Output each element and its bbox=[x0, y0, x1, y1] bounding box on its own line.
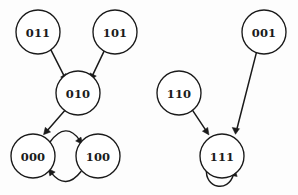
edge-line bbox=[51, 50, 65, 77]
node-001[interactable]: 001 bbox=[242, 10, 286, 54]
node-111[interactable]: 111 bbox=[200, 134, 244, 178]
edge-100-to-000 bbox=[48, 169, 81, 182]
edge-line bbox=[237, 53, 257, 129]
node-label: 100 bbox=[86, 150, 111, 164]
edge-000-to-100 bbox=[50, 131, 83, 144]
diagram-canvas: 011 101 010 000 100 110 bbox=[0, 0, 298, 195]
node-label: 001 bbox=[252, 26, 277, 40]
edge-001-to-111 bbox=[232, 53, 256, 135]
edge-curve bbox=[51, 172, 81, 182]
node-010[interactable]: 010 bbox=[56, 71, 100, 115]
edge-line bbox=[47, 111, 65, 131]
node-group: 011 101 010 000 100 110 bbox=[11, 10, 286, 178]
arrow-head-icon bbox=[202, 127, 209, 134]
edge-curve bbox=[50, 131, 80, 142]
node-label: 111 bbox=[210, 150, 235, 164]
node-label: 000 bbox=[21, 150, 46, 164]
node-label: 010 bbox=[66, 87, 91, 101]
node-label: 011 bbox=[26, 26, 51, 40]
node-label: 101 bbox=[103, 26, 128, 40]
arrow-head-icon bbox=[232, 127, 239, 134]
node-label: 110 bbox=[167, 87, 192, 101]
edge-line bbox=[92, 51, 104, 76]
edge-110-to-111 bbox=[193, 110, 209, 135]
state-transition-diagram: 011 101 010 000 100 110 bbox=[0, 0, 298, 195]
node-000[interactable]: 000 bbox=[11, 134, 55, 178]
node-100[interactable]: 100 bbox=[76, 134, 120, 178]
edge-line bbox=[193, 110, 206, 130]
node-101[interactable]: 101 bbox=[93, 10, 137, 54]
node-110[interactable]: 110 bbox=[157, 71, 201, 115]
node-011[interactable]: 011 bbox=[16, 10, 60, 54]
